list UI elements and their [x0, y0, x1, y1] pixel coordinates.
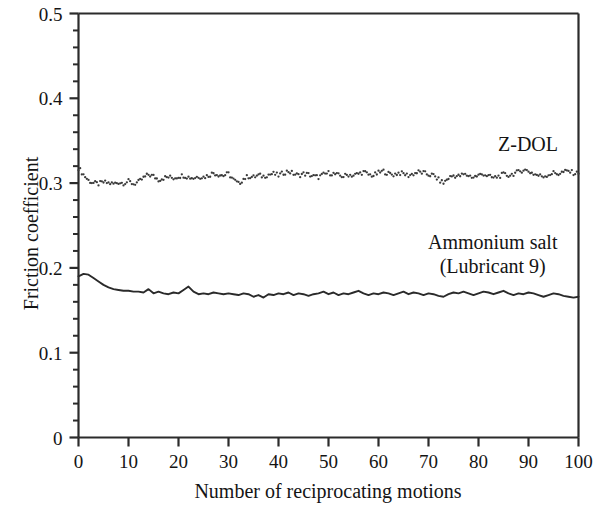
- y-axis-title: Friction coefficient: [20, 109, 43, 359]
- series-line-z-dol: [77, 167, 579, 187]
- friction-coefficient-chart: 00.10.20.30.40.5 0102030405060708090100 …: [0, 0, 596, 508]
- y-axis-major-ticks: [70, 14, 79, 438]
- x-axis-title: Number of reciprocating motions: [78, 480, 578, 503]
- y-tick-label: 0.4: [9, 89, 63, 108]
- y-tick-label: 0.5: [9, 5, 63, 24]
- axis-frame: [79, 14, 579, 438]
- x-tick-label: 100: [549, 452, 596, 471]
- series-annotation-ammonium-salt: Ammonium salt (Lubricant 9): [428, 231, 557, 278]
- annotation-line-1: Ammonium salt: [428, 231, 557, 253]
- y-tick-label: 0: [9, 429, 63, 448]
- series-annotation-z-dol: Z-DOL: [498, 133, 558, 157]
- annotation-line-2: (Lubricant 9): [428, 255, 557, 279]
- x-axis-major-ticks: [79, 438, 579, 447]
